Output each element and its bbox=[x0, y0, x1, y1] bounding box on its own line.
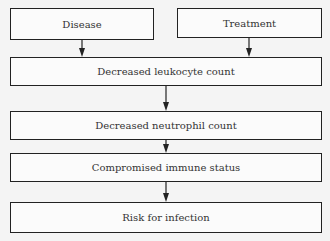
node-risk-for-infection: Risk for infection bbox=[10, 202, 322, 233]
node-decreased-leukocyte-count: Decreased leukocyte count bbox=[10, 57, 322, 86]
node-compromised-immune-status: Compromised immune status bbox=[10, 153, 322, 182]
node-treatment: Treatment bbox=[177, 8, 322, 38]
node-disease: Disease bbox=[10, 8, 154, 40]
node-decreased-neutrophil-count: Decreased neutrophil count bbox=[10, 111, 322, 140]
